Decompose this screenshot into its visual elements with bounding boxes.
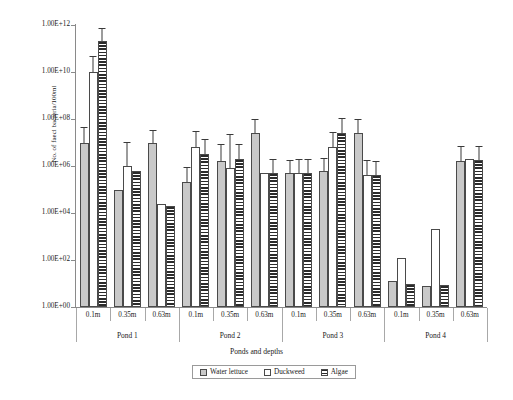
error-bar-stem — [102, 29, 103, 42]
bar-algae — [372, 175, 381, 307]
bar-group — [213, 25, 247, 307]
bar-slot — [354, 25, 363, 307]
y-axis-tick-mark — [71, 260, 75, 261]
error-bar-cap — [183, 167, 190, 168]
bar-lettuce — [80, 143, 89, 308]
bar-duckweed — [363, 175, 372, 307]
bar-slot — [465, 25, 474, 307]
bar-slot — [166, 25, 175, 307]
axis-separator — [213, 308, 214, 321]
depth-axis-label: 0.63m — [247, 311, 281, 319]
bar-slot — [372, 25, 381, 307]
bar-group — [316, 25, 350, 307]
error-bar-cap — [286, 160, 293, 161]
legend-item[interactable]: Duckweed — [264, 368, 305, 376]
error-bar-cap — [201, 139, 208, 140]
bar-lettuce — [148, 143, 157, 308]
bar-duckweed — [157, 204, 166, 307]
pond-separator — [282, 308, 283, 342]
legend-swatch-duckweed — [264, 369, 271, 376]
bar-slot — [260, 25, 269, 307]
depth-axis-label: 0.1m — [384, 311, 418, 319]
bar-lettuce — [114, 190, 123, 308]
bar-slot — [217, 25, 226, 307]
depth-axis-label: 0.35m — [213, 311, 247, 319]
bar-slot — [388, 25, 397, 307]
legend-item[interactable]: Water lettuce — [200, 368, 248, 376]
chart-legend: Water lettuceDuckweedAlgae — [192, 365, 356, 379]
error-bar-stem — [127, 143, 128, 167]
error-bar-cap — [227, 134, 234, 135]
bar-slot — [148, 25, 157, 307]
error-bar-stem — [230, 135, 231, 168]
bar-slot — [235, 25, 244, 307]
bar-algae — [337, 133, 346, 307]
error-bar-cap — [236, 144, 243, 145]
plot-area — [76, 25, 487, 307]
depth-axis-label: 0.1m — [76, 311, 110, 319]
bar-duckweed — [397, 258, 406, 307]
bar-slot — [226, 25, 235, 307]
error-bar-cap — [475, 146, 482, 147]
error-bar-stem — [367, 161, 368, 175]
pond-axis-label: Pond 4 — [384, 331, 487, 340]
error-bar-stem — [323, 159, 324, 171]
depth-axis-label: 0.1m — [179, 311, 213, 319]
error-bar-stem — [341, 119, 342, 133]
bar-algae — [474, 160, 483, 307]
bar-slot — [114, 25, 123, 307]
error-bar-cap — [329, 132, 336, 133]
bar-lettuce — [285, 173, 294, 307]
bar-slot — [157, 25, 166, 307]
depth-axis-label: 0.35m — [110, 311, 144, 319]
pond-separator — [384, 308, 385, 342]
y-axis-tick-label: 1.00E+06 — [2, 162, 70, 169]
bar-slot — [440, 25, 449, 307]
y-axis-tick-label: 1.00E+12 — [2, 21, 70, 28]
legend-item[interactable]: Algae — [321, 368, 348, 376]
error-bar-cap — [252, 119, 259, 120]
chart-figure: No. of faecl bacteria/100ml 1.00E+121.00… — [0, 0, 513, 400]
error-bar-cap — [373, 161, 380, 162]
error-bar-stem — [221, 145, 222, 161]
bar-slot — [319, 25, 328, 307]
bar-lettuce — [354, 133, 363, 307]
bar-lettuce — [456, 161, 465, 307]
bar-group — [419, 25, 453, 307]
error-bar-cap — [355, 119, 362, 120]
pond-separator — [76, 308, 77, 342]
bar-duckweed — [431, 229, 440, 307]
pond-axis-label: Pond 2 — [179, 331, 282, 340]
y-axis-tick-mark — [71, 166, 75, 167]
bar-algae — [269, 173, 278, 307]
pond-axis-label: Pond 1 — [76, 331, 179, 340]
bar-slot — [406, 25, 415, 307]
y-axis-tick-mark — [71, 307, 75, 308]
error-bar-stem — [460, 147, 461, 161]
y-axis-tick-label: 1.00E+10 — [2, 68, 70, 75]
bar-lettuce — [422, 286, 431, 307]
bar-algae — [200, 154, 209, 307]
axis-separator — [247, 308, 248, 321]
error-bar-stem — [93, 57, 94, 72]
bar-slot — [191, 25, 200, 307]
bar-duckweed — [328, 147, 337, 307]
bar-lettuce — [182, 182, 191, 307]
error-bar-cap — [304, 159, 311, 160]
bar-group — [282, 25, 316, 307]
axis-separator — [453, 308, 454, 321]
y-axis-tick-label: 1.00E+04 — [2, 209, 70, 216]
y-axis-tick-mark — [71, 25, 75, 26]
bar-slot — [303, 25, 312, 307]
legend-label: Water lettuce — [210, 368, 248, 376]
legend-swatch-lettuce — [200, 369, 207, 376]
axis-separator — [419, 308, 420, 321]
error-bar-cap — [295, 159, 302, 160]
depth-axis-label: 0.63m — [145, 311, 179, 319]
depth-axis-label: 0.1m — [282, 311, 316, 319]
axis-separator — [350, 308, 351, 321]
bar-slot — [337, 25, 346, 307]
axis-separator — [316, 308, 317, 321]
bar-algae — [166, 206, 175, 307]
y-axis-tick-mark — [71, 213, 75, 214]
